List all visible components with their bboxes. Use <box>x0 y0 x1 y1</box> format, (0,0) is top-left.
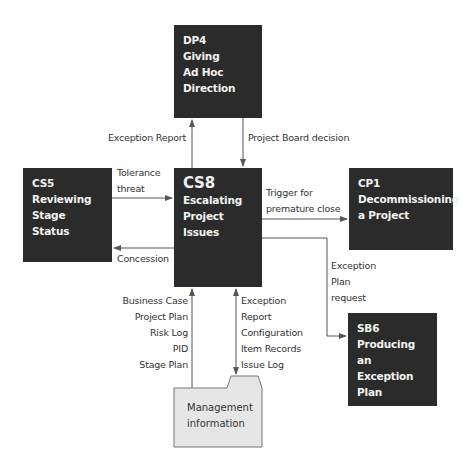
label-line: premature close <box>266 201 340 217</box>
node-title-line: Producing an <box>357 336 428 368</box>
node-cs5: CS5 Reviewing Stage Status <box>23 168 112 262</box>
label-tolerance-threat: Tolerance threat <box>117 165 161 197</box>
label-line: Exception <box>331 258 376 274</box>
label-line: Item Records <box>241 341 303 357</box>
node-code: DP4 <box>183 32 253 48</box>
label-board-decision: Project Board decision <box>248 130 349 146</box>
label-line: Issue Log <box>241 357 303 373</box>
label-line: Project Plan <box>110 309 188 325</box>
label-line: Risk Log <box>110 325 188 341</box>
node-title-line: Escalating <box>183 192 253 208</box>
node-title-line: Reviewing <box>32 191 103 207</box>
node-code: CS8 <box>183 174 253 192</box>
node-code: SB6 <box>357 320 428 336</box>
node-title-line: Exception <box>357 368 428 384</box>
label-inputs-right: Exception Report Configuration Item Reco… <box>241 293 303 373</box>
node-title-line: Issues <box>183 224 253 240</box>
label-line: Exception <box>241 293 303 309</box>
node-dp4: DP4 Giving Ad Hoc Direction <box>174 25 262 118</box>
node-title-line: Plan <box>357 384 428 400</box>
label-line: Trigger for <box>266 185 340 201</box>
node-title-line: Status <box>32 223 103 239</box>
label-line: Report <box>241 309 303 325</box>
node-title-line: Direction <box>183 80 253 96</box>
node-cs8: CS8 Escalating Project Issues <box>174 168 262 287</box>
label-line: Tolerance <box>117 165 161 181</box>
label-line: Plan <box>331 274 376 290</box>
label-line: Stage Plan <box>110 357 188 373</box>
label-line: Configuration <box>241 325 303 341</box>
node-sb6: SB6 Producing an Exception Plan <box>348 313 437 406</box>
node-title-line: Decommissioning <box>358 191 444 207</box>
folder-label-line: information <box>187 416 253 432</box>
node-cp1: CP1 Decommissioning a Project <box>349 168 453 250</box>
label-line: threat <box>117 181 161 197</box>
node-code: CS5 <box>32 175 103 191</box>
node-management-information: Management information <box>187 400 253 432</box>
node-title-line: Ad Hoc <box>183 64 253 80</box>
node-title-line: Stage <box>32 207 103 223</box>
label-line: PID <box>110 341 188 357</box>
label-concession: Concession <box>117 251 169 267</box>
label-line: request <box>331 290 376 306</box>
label-exception-report: Exception Report <box>108 130 186 146</box>
node-title-line: a Project <box>358 207 444 223</box>
node-title-line: Project <box>183 208 253 224</box>
label-exception-plan-request: Exception Plan request <box>331 258 376 306</box>
label-trigger: Trigger for premature close <box>266 185 340 217</box>
node-code: CP1 <box>358 175 444 191</box>
node-title-line: Giving <box>183 48 253 64</box>
label-inputs-left: Business Case Project Plan Risk Log PID … <box>110 293 188 373</box>
label-line: Business Case <box>110 293 188 309</box>
folder-label-line: Management <box>187 400 253 416</box>
